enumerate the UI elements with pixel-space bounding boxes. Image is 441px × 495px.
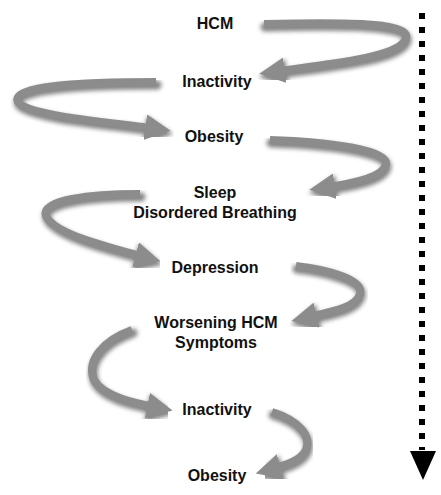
arrow-obesity-to-sleep	[270, 140, 387, 191]
step-inactivity: Inactivity	[182, 72, 251, 91]
step-inactivity-2: Inactivity	[182, 400, 251, 419]
arrow-inactivity-to-obesity-2	[268, 412, 308, 473]
step-obesity-2: Obesity	[188, 466, 247, 485]
step-worsening-line2: Symptoms	[175, 333, 257, 352]
step-sleep-line2: Disordered Breathing	[133, 203, 297, 222]
arrow-hcm-to-inactivity	[264, 23, 407, 75]
downward-spiral-diagram: HCM Inactivity Obesity Sleep Disordered …	[0, 0, 441, 495]
progression-down-arrow-icon	[410, 13, 436, 480]
arrow-inactivity-to-obesity	[17, 82, 159, 132]
step-obesity: Obesity	[185, 127, 244, 146]
step-sleep-line1: Sleep	[194, 183, 237, 202]
arrow-depression-to-worsening	[296, 266, 361, 321]
step-depression: Depression	[171, 258, 258, 277]
step-worsening-line1: Worsening HCM	[154, 313, 277, 332]
step-hcm: HCM	[197, 14, 233, 33]
arrow-worsening-to-inactivity	[92, 330, 161, 411]
